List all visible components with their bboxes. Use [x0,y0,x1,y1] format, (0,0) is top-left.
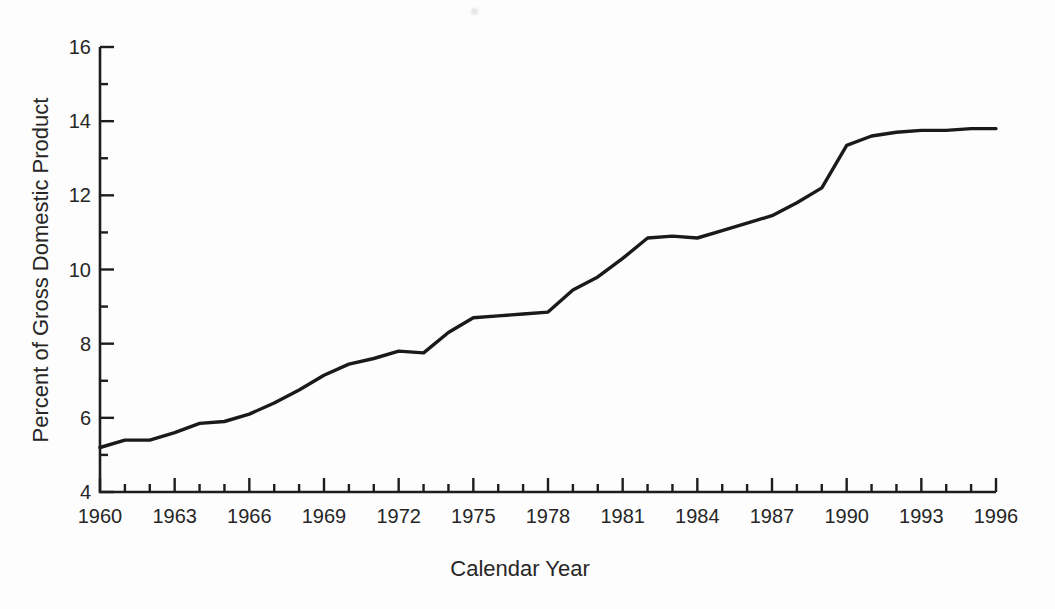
x-tick-label: 1975 [451,505,496,527]
x-tick-label: 1996 [974,505,1019,527]
x-tick-label: 1987 [750,505,795,527]
axis-spine [100,47,996,492]
x-tick-label: 1966 [227,505,272,527]
y-tick-label: 8 [80,333,91,355]
x-tick-label: 1972 [376,505,421,527]
x-tick-label: 1981 [600,505,645,527]
y-axis-title: Percent of Gross Domestic Product [28,98,54,443]
x-tick-label: 1984 [675,505,720,527]
y-tick-label: 6 [80,407,91,429]
y-tick-label: 12 [69,184,91,206]
x-tick-label: 1993 [899,505,944,527]
y-tick-label: 10 [69,259,91,281]
x-tick-label: 1969 [302,505,347,527]
x-tick-label: 1960 [78,505,123,527]
data-line [100,129,996,448]
y-tick-label: 14 [69,110,91,132]
y-tick-label: 4 [80,481,91,503]
line-chart: 1960196319661969197219751978198119841987… [0,0,1055,609]
scan-speck [471,8,478,15]
x-axis-title: Calendar Year [450,556,589,582]
chart-figure: 1960196319661969197219751978198119841987… [0,0,1055,609]
y-tick-label: 16 [69,36,91,58]
x-tick-label: 1978 [526,505,571,527]
x-tick-label: 1990 [824,505,869,527]
x-tick-label: 1963 [152,505,197,527]
